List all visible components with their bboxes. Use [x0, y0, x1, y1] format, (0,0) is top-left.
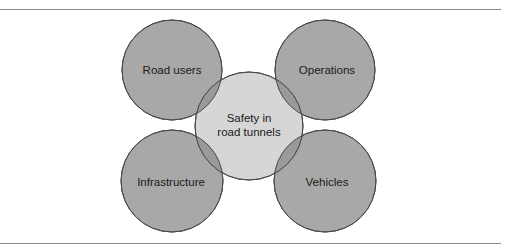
- bottom-rule: [0, 243, 501, 244]
- label-operations: Operations: [299, 64, 356, 76]
- label-center-line1: Safety in: [227, 112, 272, 124]
- label-vehicles: Vehicles: [306, 176, 349, 188]
- label-infrastructure: Infrastructure: [137, 176, 205, 188]
- label-road-users: Road users: [143, 64, 202, 76]
- label-center-line2: road tunnels: [217, 126, 281, 138]
- safety-venn-diagram: Road users Operations Infrastructure Veh…: [0, 0, 506, 247]
